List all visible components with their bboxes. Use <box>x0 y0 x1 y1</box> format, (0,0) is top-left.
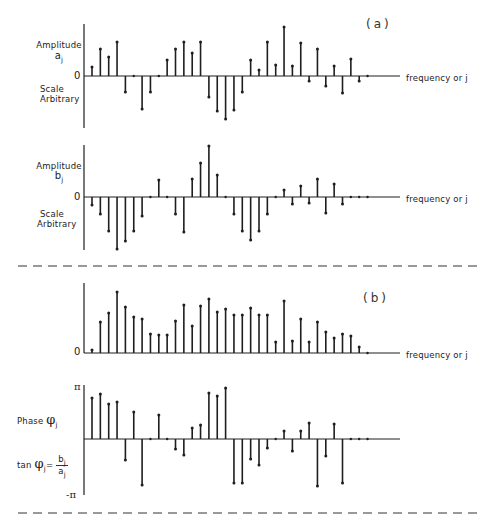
stem-head <box>232 482 235 485</box>
stem-head <box>124 459 127 462</box>
stem-head <box>324 331 327 334</box>
stem-head <box>308 202 311 205</box>
stem-head <box>216 174 219 177</box>
stem-head <box>283 300 286 303</box>
zero-point <box>149 438 151 440</box>
stem-head <box>182 41 185 44</box>
stem-head <box>107 403 110 406</box>
stem-head <box>149 91 152 94</box>
bj-zero-label: 0 <box>74 192 81 202</box>
panel-a-tag: (a) <box>366 17 392 31</box>
mag-xlabel: frequency or j <box>406 350 468 360</box>
zero-point <box>275 438 277 440</box>
stem-head <box>283 430 286 433</box>
phi-symbol: φ <box>46 412 55 427</box>
stem-head <box>207 145 210 148</box>
stem-head <box>191 427 194 430</box>
stem-head <box>232 314 235 317</box>
stem-head <box>141 318 144 321</box>
stem-head <box>341 92 344 95</box>
stem-head <box>266 213 269 216</box>
phase-title-label: Phase φj <box>17 415 58 427</box>
stem-head <box>207 392 210 395</box>
stem-head <box>99 213 102 216</box>
stem-head <box>207 298 210 301</box>
stem-head <box>116 291 119 294</box>
bj-scale-label: Scale <box>40 209 64 219</box>
stem-head <box>232 213 235 216</box>
bj-symbol-label: bj <box>34 171 84 182</box>
stem-head <box>316 178 319 181</box>
stem-head <box>274 341 277 344</box>
zero-point <box>158 75 160 77</box>
stem-head <box>91 204 94 207</box>
stem-head <box>141 215 144 218</box>
stem-head <box>216 311 219 314</box>
aj-xlabel: frequency or j <box>406 73 468 83</box>
aj-zero-label: 0 <box>74 71 81 81</box>
stem-head <box>141 484 144 487</box>
stem-head <box>174 448 177 451</box>
zero-point <box>366 196 368 198</box>
stem-head <box>316 321 319 324</box>
panel-b-tag: (b) <box>363 291 389 305</box>
stem-head <box>308 341 311 344</box>
stem-head <box>107 230 110 233</box>
zero-point <box>350 438 352 440</box>
aj-scale-label: Scale <box>40 84 64 94</box>
stem-head <box>149 333 152 336</box>
stem-head <box>132 230 135 233</box>
stem-head <box>333 65 336 68</box>
pi-bottom-label: -π <box>66 490 76 500</box>
stem-head <box>299 318 302 321</box>
zero-point <box>358 438 360 440</box>
mag-zero-label: 0 <box>74 347 81 357</box>
stem-head <box>157 179 160 182</box>
stem-head <box>299 42 302 45</box>
zero-point <box>350 196 352 198</box>
stem-head <box>99 393 102 396</box>
stem-head <box>324 455 327 458</box>
stem-head <box>91 66 94 69</box>
stem-head <box>216 110 219 113</box>
tan-formula-label: tan φj= bj aj <box>17 454 68 477</box>
stem-head <box>299 430 302 433</box>
zero-point <box>275 196 277 198</box>
zero-point <box>133 75 135 77</box>
stem-head <box>249 239 252 242</box>
stem-head <box>141 108 144 111</box>
stem-head <box>199 424 202 427</box>
stem-head <box>191 178 194 181</box>
stem-head <box>291 340 294 343</box>
stem-head <box>157 334 160 337</box>
stem-head <box>241 314 244 317</box>
stem-head <box>266 314 269 317</box>
zero-point <box>366 75 368 77</box>
zero-point <box>366 352 368 354</box>
aj-arbitrary-label: Arbitrary <box>40 94 79 104</box>
tan-fraction: bj aj <box>56 454 68 477</box>
stem-head <box>324 212 327 215</box>
stem-head <box>132 316 135 319</box>
stem-head <box>124 240 127 243</box>
stem-head <box>116 41 119 44</box>
stem-head <box>266 447 269 450</box>
zero-point <box>366 438 368 440</box>
stem-head <box>291 450 294 453</box>
stem-head <box>207 96 210 99</box>
stem-head <box>174 320 177 323</box>
stem-head <box>216 395 219 398</box>
stem-head <box>241 230 244 233</box>
stem-head <box>324 85 327 88</box>
stem-head <box>358 80 361 83</box>
stem-head <box>191 52 194 55</box>
zero-point <box>358 196 360 198</box>
stem-head <box>124 91 127 94</box>
stem-head <box>266 41 269 44</box>
stem-head <box>199 41 202 44</box>
stem-head <box>341 203 344 206</box>
stem-head <box>316 485 319 488</box>
stem-head <box>249 59 252 62</box>
stem-head <box>274 64 277 67</box>
zero-point <box>224 196 226 198</box>
